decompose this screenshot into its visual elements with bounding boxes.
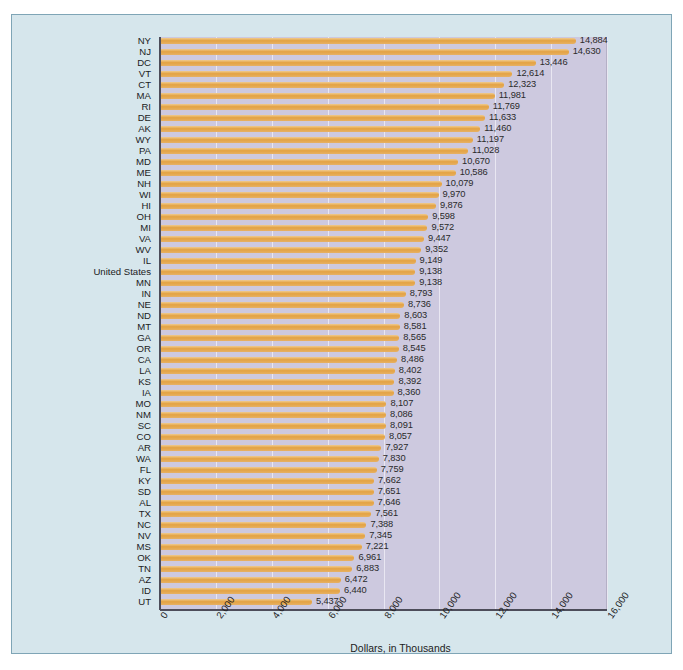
x-tick-label: 4,000 bbox=[270, 594, 293, 620]
x-tick-label: 2,000 bbox=[214, 594, 237, 620]
x-axis-tick-labels: 02,0004,0006,0008,00010,00012,00014,0001… bbox=[12, 15, 671, 653]
cut-off-header-text bbox=[18, 0, 318, 9]
x-tick-label: 8,000 bbox=[382, 594, 405, 620]
x-tick-label: 0 bbox=[158, 610, 170, 621]
x-axis-title: Dollars, in Thousands bbox=[12, 643, 673, 654]
x-axis-title-label: Dollars, in Thousands bbox=[350, 643, 450, 654]
x-tick-label: 6,000 bbox=[326, 594, 349, 620]
x-tick-label: 14,000 bbox=[549, 590, 575, 620]
x-tick-label: 12,000 bbox=[493, 590, 519, 620]
x-tick-label: 10,000 bbox=[437, 590, 463, 620]
chart-figure-panel: NYNJDCVTCTMARIDEAKWYPAMDMENHWIHIOHMIVAWV… bbox=[11, 14, 672, 654]
x-tick-label: 16,000 bbox=[605, 590, 631, 620]
